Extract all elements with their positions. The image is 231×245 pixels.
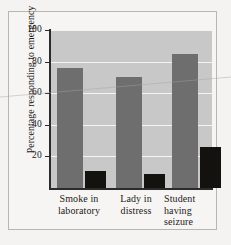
y-tick-20 [45,156,50,157]
bar-lady-group[interactable] [144,174,165,188]
category-label-lady: Lady in distress [110,193,162,216]
y-tick-80 [45,62,50,63]
gridline-100 [50,30,212,31]
bar-smoke-alone[interactable] [57,68,83,188]
category-label-smoke-line1: Smoke in [50,193,108,205]
bar-lady-alone[interactable] [116,77,142,188]
category-label-lady-line2: distress [110,205,162,217]
y-tick-100 [45,30,50,31]
y-tick-40 [45,125,50,126]
category-label-seizure: Student having seizure [164,193,216,228]
category-label-seizure-line3: seizure [164,216,216,228]
y-tick-60 [45,93,50,94]
bar-smoke-group[interactable] [85,171,106,188]
plot-area [50,30,212,188]
bar-seizure-alone[interactable] [172,54,198,188]
bar-seizure-group[interactable] [200,147,221,188]
category-label-seizure-line1: Student [164,193,216,205]
x-axis-line [49,188,213,190]
category-label-smoke: Smoke in laboratory [50,193,108,216]
category-label-smoke-line2: laboratory [50,205,108,217]
figure: 100 80 60 40 20 Percentage responding to… [0,0,231,245]
y-axis-line [49,29,51,189]
category-label-lady-line1: Lady in [110,193,162,205]
category-label-seizure-line2: having [164,205,216,217]
y-axis-title: Percentage responding to emergency [25,0,36,165]
